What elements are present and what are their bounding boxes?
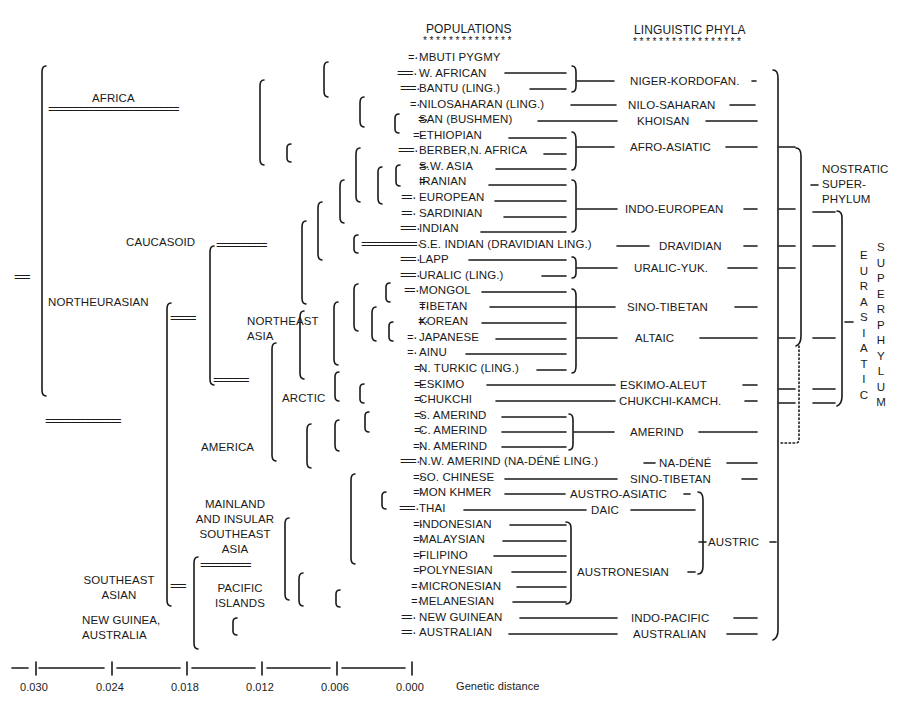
superphylum-letter: E	[875, 287, 887, 303]
region-label-pacific-line2: ISLANDS	[205, 596, 275, 611]
eurasiatic-letter: I	[858, 326, 870, 342]
phylum-niger-kordofan: NIGER-KORDOFAN.	[630, 75, 739, 87]
nostratic-line3: PHYLUM	[822, 192, 889, 207]
region-label-america: AMERICA	[201, 441, 254, 453]
branch-caucasoid: ==========	[216, 240, 266, 252]
population-label: EUROPEAN	[419, 191, 484, 203]
population-label: W. AFRICAN	[419, 67, 486, 79]
superphylum-eurasiatic-label: SUPERPHYLUM	[875, 240, 887, 411]
region-label-sea-line2: ASIAN	[74, 588, 164, 603]
nostratic-line1: NOSTRATIC	[822, 162, 889, 177]
phylum-nilo-saharan: NILO-SAHARAN	[628, 99, 715, 111]
population-label: INDIAN	[419, 222, 459, 234]
superphylum-letter: U	[875, 380, 887, 396]
eurasiatic-letter: S	[858, 310, 870, 326]
population-label: BANTU (LING.)	[419, 82, 500, 94]
population-label: N.W. AMERIND (NA-DÉNÉ LING.)	[419, 455, 598, 467]
phylum-afro-asiatic: AFRO-ASIATIC	[630, 141, 711, 153]
population-branch: ==·	[401, 192, 416, 204]
eurasiatic-letter: R	[858, 279, 870, 295]
population-label: BERBER,N. AFRICA	[419, 144, 527, 156]
population-label: TIBETAN	[419, 300, 467, 312]
phylum-austro-asiatic: AUSTRO-ASIATIC	[570, 488, 667, 500]
axis-tick-label: 0.018	[171, 681, 199, 693]
population-branch: ===·	[400, 254, 420, 266]
region-label-northeast-asia-2: ASIA	[247, 330, 274, 342]
population-branch: ===·	[400, 83, 420, 95]
region-label-mainland-line3: SOUTHEAST	[185, 527, 285, 542]
axis-tick-label: 0.024	[96, 681, 124, 693]
phylum-indo-pacific: INDO-PACIFIC	[631, 612, 709, 624]
superphylum-letter: P	[875, 318, 887, 334]
population-label: NILOSAHARAN (LING.)	[419, 98, 544, 110]
population-label: CHUKCHI	[419, 393, 472, 405]
population-label: MBUTI PYGMY	[419, 51, 501, 63]
population-label: ESKIMO	[419, 378, 464, 390]
region-label-africa: AFRICA	[92, 92, 135, 104]
region-label-ng-line1: NEW GUINEA,	[82, 613, 160, 628]
branch-asian: ===============	[45, 416, 120, 428]
region-label-new-guinea-australia: NEW GUINEA, AUSTRALIA	[82, 613, 160, 643]
population-label: MON KHMER	[419, 486, 491, 498]
population-label: JAPANESE	[419, 331, 479, 343]
population-label: THAI	[419, 502, 446, 514]
region-label-mainland-line4: ASIA	[185, 542, 285, 557]
phylum-austric: AUSTRIC	[708, 536, 759, 548]
region-label-caucasoid: CAUCASOID	[126, 236, 195, 248]
phylum-indo-european: INDO-EUROPEAN	[625, 203, 723, 215]
region-label-mainland-line1: MAINLAND	[185, 497, 285, 512]
branch-mainland: ==========	[200, 560, 250, 572]
axis-title: Genetic distance	[456, 680, 540, 692]
population-label: IRANIAN	[419, 175, 466, 187]
population-branch: ==·	[404, 285, 419, 297]
superphylum-eurasiatic: EURASIATIC	[858, 248, 870, 403]
population-branch: ===·	[400, 223, 420, 235]
axis-tick-label: 0.006	[321, 681, 349, 693]
axis-tick-label: 0.012	[246, 681, 274, 693]
phylum-daic: DAIC	[591, 504, 619, 516]
phylum-altaic: ALTAIC	[635, 332, 674, 344]
population-label: AUSTRALIAN	[419, 626, 492, 638]
population-label: KOREAN	[419, 315, 468, 327]
root-branch: ===	[14, 272, 29, 284]
branch-southeast-asian: ===	[170, 581, 185, 593]
population-branch: ===·	[400, 270, 420, 282]
population-label: MICRONESIAN	[419, 580, 501, 592]
population-branch: ==·	[401, 612, 416, 624]
eurasiatic-letter: E	[858, 248, 870, 264]
population-label: ETHIOPIAN	[419, 129, 482, 141]
superphylum-letter: R	[875, 302, 887, 318]
eurasiatic-letter: C	[858, 388, 870, 404]
phylum-eskimo-aleut: ESKIMO-ALEUT	[620, 379, 707, 391]
superphylum-letter: H	[875, 333, 887, 349]
branch-neasia-america: =======	[213, 375, 248, 387]
population-label: C. AMERIND	[419, 424, 487, 436]
superphylum-letter: L	[875, 364, 887, 380]
superphylum-letter: M	[875, 395, 887, 411]
region-label-mainland-line2: AND INSULAR	[185, 512, 285, 527]
region-label-northeurasian: NORTHEURASIAN	[48, 296, 149, 308]
eurasiatic-letter: T	[858, 357, 870, 373]
region-label-ng-line2: AUSTRALIA	[82, 628, 160, 643]
population-branch: =·	[407, 347, 417, 359]
branch-northeurasian: =====	[170, 313, 195, 325]
population-branch: ===·	[397, 68, 417, 80]
region-label-pacific-line1: PACIFIC	[205, 581, 275, 596]
population-label: INDONESIAN	[419, 518, 492, 530]
population-branch: ==·	[401, 627, 416, 639]
phylum-khoisan: KHOISAN	[637, 115, 689, 127]
phylum-austronesian: AUSTRONESIAN	[577, 566, 669, 578]
eurasiatic-letter: U	[858, 264, 870, 280]
population-branch: ==·	[401, 208, 416, 220]
root-bracket	[42, 66, 46, 396]
population-branch: ===========·	[361, 239, 421, 251]
population-branch: ===·	[398, 145, 418, 157]
axis-tick-label: 0.030	[20, 681, 48, 693]
population-label: SO. CHINESE	[419, 471, 494, 483]
eurasiatic-letter: I	[858, 372, 870, 388]
population-label: N. TURKIC (LING.)	[419, 362, 519, 374]
region-label-southeast-asian: SOUTHEAST ASIAN	[74, 573, 164, 603]
superphylum-nostratic: NOSTRATIC SUPER- PHYLUM	[822, 162, 889, 207]
nostratic-line2: SUPER-	[822, 177, 889, 192]
phylum-na-dene: NA-DÉNÉ	[659, 457, 711, 469]
